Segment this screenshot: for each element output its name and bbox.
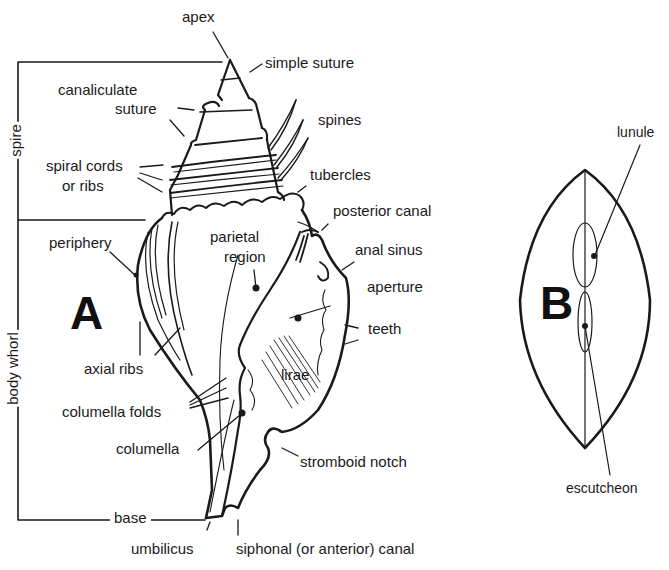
label-parietal-region-line1: parietal: [210, 228, 259, 245]
label-escutcheon: escutcheon: [566, 480, 638, 497]
label-spiral-cords-line2: or ribs: [62, 177, 104, 194]
label-columella: columella: [116, 440, 179, 457]
label-canaliculate-suture-line2: suture: [115, 100, 157, 117]
label-tubercles: tubercles: [310, 166, 371, 183]
label-axial-ribs: axial ribs: [84, 360, 143, 377]
label-columella-folds: columella folds: [62, 403, 161, 420]
label-lunule: lunule: [617, 124, 654, 141]
body-whorl-bracket-label: body whorl: [4, 330, 21, 407]
panel-b-letter: B: [540, 280, 573, 326]
axial-ribs: [146, 222, 192, 375]
label-apex: apex: [182, 8, 215, 25]
label-canaliculate-suture-line1: canaliculate: [58, 81, 137, 98]
label-siphonal-canal: siphonal (or anterior) canal: [236, 540, 414, 557]
label-teeth: teeth: [368, 320, 401, 337]
label-periphery: periphery: [49, 234, 112, 251]
shell-spire: [162, 60, 304, 218]
shell-morphology-diagram: spire body whorl A B apex simple suture …: [0, 0, 669, 570]
posterior-canal: [296, 230, 328, 281]
label-aperture: aperture: [367, 278, 423, 295]
label-base: base: [110, 509, 151, 526]
label-spines: spines: [318, 111, 361, 128]
label-anal-sinus: anal sinus: [355, 241, 423, 258]
columella-lines: [210, 255, 238, 512]
bivalve-internal: [573, 145, 640, 475]
label-simple-suture: simple suture: [265, 54, 354, 71]
label-stromboid-notch: stromboid notch: [300, 453, 407, 470]
panel-a-letter: A: [70, 290, 103, 336]
label-parietal-region-line2: region: [224, 248, 266, 265]
label-spiral-cords-line1: spiral cords: [46, 157, 123, 174]
label-lirae: lirae: [281, 366, 309, 383]
spire-bracket-label: spire: [7, 122, 24, 159]
label-umbilicus: umbilicus: [131, 540, 194, 557]
label-posterior-canal: posterior canal: [333, 202, 431, 219]
